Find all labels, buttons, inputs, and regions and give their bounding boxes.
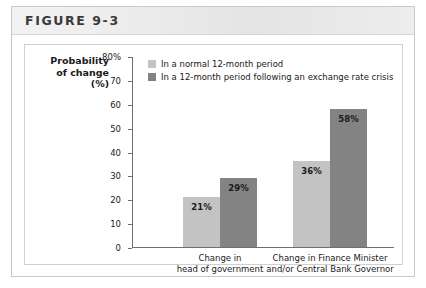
y-axis-tick-label: 60 — [110, 100, 121, 110]
bar: 29% — [220, 178, 257, 247]
legend-item-label: In a normal 12-month period — [161, 59, 283, 69]
y-axis-title-line-2: of change — [31, 67, 109, 79]
y-axis-line — [132, 57, 133, 248]
chart-panel: Probability of change (%) 80%70605040302… — [24, 44, 403, 265]
y-axis-tick-label: 0 — [116, 243, 121, 253]
y-axis-title-line-3: (%) — [31, 78, 109, 90]
category-label-line: and/or Central Bank Governor — [255, 264, 405, 275]
figure-frame: FIGURE 9-3 Probability of change (%) 80%… — [11, 6, 415, 277]
y-axis-tick: 0 — [128, 248, 132, 249]
y-axis-tick-label: 40 — [110, 148, 121, 158]
figure-header-band: FIGURE 9-3 — [12, 7, 414, 35]
y-axis-tick: 20 — [128, 200, 132, 201]
bar-value-label: 36% — [293, 166, 330, 176]
y-axis-tick: 50 — [128, 129, 132, 130]
bar: 58% — [330, 109, 367, 247]
legend-item-label: In a 12-month period following an exchan… — [161, 72, 393, 82]
y-axis-tick-label: 70 — [110, 76, 121, 86]
bar-value-label: 21% — [183, 202, 220, 212]
category-label-line: Change in Finance Minister — [255, 253, 405, 264]
bar: 21% — [183, 197, 220, 247]
y-axis-title-line-1: Probability — [31, 55, 109, 67]
y-axis-tick-label: 20 — [110, 195, 121, 205]
figure-title: FIGURE 9-3 — [25, 13, 120, 28]
y-axis-title: Probability of change (%) — [31, 55, 109, 90]
y-axis-tick: 40 — [128, 153, 132, 154]
y-axis-tick: 80% — [128, 57, 132, 58]
category-label: Change in Finance Ministerand/or Central… — [255, 253, 405, 275]
y-axis-tick-label: 10 — [110, 219, 121, 229]
legend-swatch-icon — [148, 60, 156, 68]
y-axis-tick: 10 — [128, 224, 132, 225]
legend-swatch-icon — [148, 73, 156, 81]
legend-item[interactable]: In a 12-month period following an exchan… — [148, 72, 393, 82]
y-axis-tick: 60 — [128, 105, 132, 106]
y-axis-tick-label: 50 — [110, 124, 121, 134]
y-axis-tick: 70 — [128, 81, 132, 82]
bar-value-label: 58% — [330, 114, 367, 124]
legend-item[interactable]: In a normal 12-month period — [148, 59, 393, 69]
chart-legend: In a normal 12-month periodIn a 12-month… — [148, 59, 393, 85]
x-axis-line — [132, 247, 394, 248]
y-axis-tick-label: 30 — [110, 171, 121, 181]
y-axis-tick-label: 80% — [102, 52, 121, 62]
y-axis-tick: 30 — [128, 176, 132, 177]
bar: 36% — [293, 161, 330, 247]
plot-area: 80%706050403020100 21%29%36%58% Change i… — [132, 57, 394, 248]
bar-value-label: 29% — [220, 183, 257, 193]
